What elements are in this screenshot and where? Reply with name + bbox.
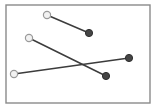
plot-canvas: [0, 0, 159, 111]
segment-1-end-marker: [85, 29, 92, 36]
segment-3-start-marker: [10, 70, 17, 77]
segment-1-start-marker: [43, 11, 50, 18]
segment-3-end-marker: [125, 54, 132, 61]
figure-root: [0, 0, 159, 111]
segment-2-end-marker: [102, 72, 109, 79]
segment-2-start-marker: [25, 34, 32, 41]
